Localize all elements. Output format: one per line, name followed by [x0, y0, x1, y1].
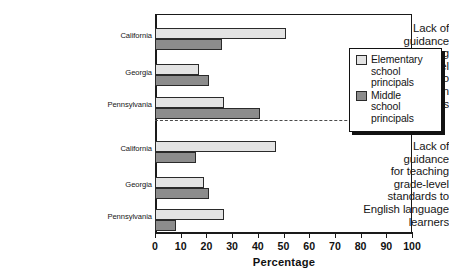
- bar-g1-pennsylvania-middle: [155, 108, 260, 119]
- y-tick-label-g2-california: California: [66, 144, 152, 153]
- bar-g2-pennsylvania-elementary: [155, 209, 224, 220]
- bar-g1-georgia-elementary: [155, 64, 199, 75]
- y-tick-label-g2-pennsylvania: Pennsylvania: [66, 212, 152, 221]
- legend-label-middle: Middle school principals: [371, 90, 414, 125]
- y-tick-label-g1-pennsylvania: Pennsylvania: [66, 100, 152, 109]
- x-tick-10: [181, 232, 182, 238]
- x-tick-100: [412, 232, 413, 238]
- x-tick-60: [309, 232, 310, 238]
- bar-g1-california-middle: [155, 39, 222, 50]
- x-tick-40: [258, 232, 259, 238]
- legend-swatch-dark-icon: [356, 91, 367, 101]
- legend-item-middle: Middle school principals: [356, 90, 436, 125]
- x-tick-0: [155, 232, 156, 238]
- y-tick-label-g1-california: California: [66, 31, 152, 40]
- x-tick-label-100: 100: [392, 240, 432, 252]
- bar-chart: Lack of guidance for teaching grade-leve…: [0, 0, 449, 277]
- bar-g2-pennsylvania-middle: [155, 220, 176, 231]
- bar-g2-california-middle: [155, 152, 196, 163]
- bar-g1-california-elementary: [155, 28, 286, 39]
- x-tick-70: [335, 232, 336, 238]
- y-tick-label-g2-georgia: Georgia: [66, 180, 152, 189]
- bar-g2-georgia-elementary: [155, 177, 204, 188]
- legend-item-elementary: Elementary school principals: [356, 54, 436, 89]
- bar-g1-georgia-middle: [155, 75, 209, 86]
- x-tick-90: [386, 232, 387, 238]
- x-tick-80: [361, 232, 362, 238]
- x-tick-20: [206, 232, 207, 238]
- legend-label-elementary: Elementary school principals: [371, 54, 423, 89]
- y-tick-label-g1-georgia: Georgia: [66, 68, 152, 77]
- bar-g2-georgia-middle: [155, 188, 209, 199]
- x-tick-30: [232, 232, 233, 238]
- x-tick-50: [284, 232, 285, 238]
- bar-g1-pennsylvania-elementary: [155, 97, 224, 108]
- legend-swatch-light-icon: [356, 55, 367, 65]
- bar-g2-california-elementary: [155, 141, 276, 152]
- legend: Elementary school principals Middle scho…: [349, 48, 442, 132]
- x-axis-title: Percentage: [155, 256, 413, 268]
